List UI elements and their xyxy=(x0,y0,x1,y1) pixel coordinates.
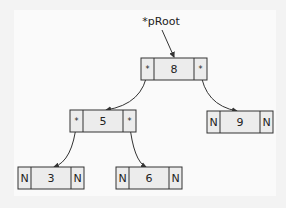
right-pointer-cell: * xyxy=(199,65,203,74)
right-null-cell: N xyxy=(262,116,270,129)
node-value: 8 xyxy=(171,63,178,76)
node-value: 9 xyxy=(237,116,244,129)
right-pointer-cell: * xyxy=(128,117,132,126)
right-null-cell: N xyxy=(171,172,179,185)
left-null-cell: N xyxy=(209,116,217,129)
tree-node-6: N6N xyxy=(116,167,182,189)
left-null-cell: N xyxy=(118,172,126,185)
binary-tree-diagram: *pRoot *8**5*N9NN3NN6N xyxy=(0,0,286,208)
node-value: 6 xyxy=(146,172,153,185)
right-null-cell: N xyxy=(73,172,81,185)
root-pointer-label: *pRoot xyxy=(142,15,180,28)
node-value: 3 xyxy=(48,172,55,185)
tree-node-3: N3N xyxy=(18,167,84,189)
diagram-canvas: *pRoot *8**5*N9NN3NN6N xyxy=(0,0,286,208)
left-null-cell: N xyxy=(20,172,28,185)
node-value: 5 xyxy=(100,115,107,128)
tree-node-5: *5* xyxy=(70,110,136,132)
tree-node-9: N9N xyxy=(207,111,273,133)
left-pointer-cell: * xyxy=(146,65,150,74)
left-pointer-cell: * xyxy=(75,117,79,126)
tree-node-8: *8* xyxy=(141,58,207,80)
root-pointer-arrow xyxy=(162,30,174,57)
